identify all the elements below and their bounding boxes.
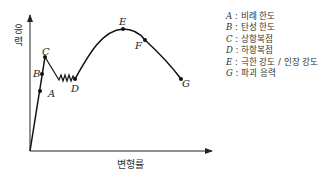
legend-item-d: D : 하항복점 [226,45,318,56]
point-a-marker [38,89,42,93]
legend-item-a: A : 비례 한도 [226,11,318,22]
point-f-marker [143,38,147,42]
legend-item-b: B : 탄성 한도 [226,22,318,33]
point-b-marker [40,72,44,76]
point-c-label: C [42,47,50,57]
point-e-label: E [119,17,126,27]
point-d-marker [73,77,77,81]
point-f-label: F [135,41,142,51]
point-d-label: D [71,84,79,94]
legend-item-c: C : 상항복점 [226,34,318,45]
hardening-curve [75,29,181,79]
legend-item-g: G : 파괴 응력 [226,68,318,79]
x-axis-label: 변형률 [108,156,152,171]
point-e-marker [121,27,125,31]
yield-drop [45,57,75,81]
point-a-label: A [48,89,55,99]
y-axis-label: 응력 [12,24,24,48]
legend: A : 비례 한도 B : 탄성 한도 C : 상항복점 D : 하항복점 E … [226,11,318,79]
legend-item-e: E : 극한 강도 / 인장 강도 [226,57,318,68]
point-g-label: G [182,79,190,89]
point-b-label: B [33,69,40,79]
